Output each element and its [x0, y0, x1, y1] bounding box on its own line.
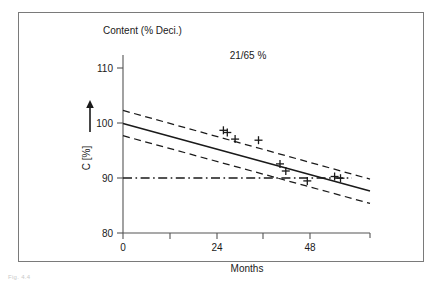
- figure-root: 110 100 90 80 0 24 48 Content (% Deci.) …: [0, 0, 442, 293]
- data-point-marker: [331, 173, 339, 181]
- lower-confidence-limit-line: [123, 136, 370, 204]
- regression-mean-line: [123, 123, 370, 190]
- x-axis-tick-labels: 0 24 48: [120, 242, 316, 253]
- y-axis-direction-arrow-icon: [86, 100, 94, 132]
- y-axis-ticks: [117, 68, 123, 233]
- y-axis-tick-labels: 110 100 90 80: [96, 63, 113, 239]
- chart-canvas: 110 100 90 80 0 24 48 Content (% Deci.) …: [0, 0, 442, 293]
- x-axis-ticks: [123, 233, 310, 239]
- y-tick-label-110: 110: [97, 63, 113, 74]
- annotation-label: 21/65 %: [230, 50, 267, 61]
- x-tick-label-24: 24: [211, 242, 223, 253]
- figure-caption-fragment: Fig. 4.4: [8, 274, 30, 280]
- data-point-marker: [337, 174, 345, 182]
- x-tick-label-0: 0: [120, 242, 126, 253]
- y-tick-label-100: 100: [96, 118, 113, 129]
- x-axis-title: Months: [231, 263, 264, 274]
- x-tick-label-48: 48: [304, 242, 316, 253]
- upper-confidence-limit-line: [123, 110, 370, 179]
- y-axis-title: C [%]: [81, 146, 92, 171]
- plot-title: Content (% Deci.): [103, 25, 182, 36]
- y-tick-label-80: 80: [102, 228, 114, 239]
- data-point-marker: [255, 136, 263, 144]
- y-tick-label-90: 90: [102, 173, 114, 184]
